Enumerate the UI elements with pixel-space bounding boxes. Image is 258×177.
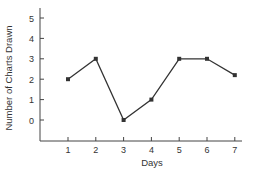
y-tick-label: 0 [29,116,34,126]
y-axis-label: Number of Charts Drawn [3,25,14,130]
data-point [205,57,209,61]
series-line [68,59,235,120]
y-tick-label: 5 [29,14,34,24]
data-series [66,57,237,122]
data-point [149,98,153,102]
x-tick-label: 5 [177,145,182,155]
x-tick-label: 4 [149,145,154,155]
y-tick-label: 4 [29,34,34,44]
data-point [66,77,70,81]
x-tick-label: 1 [65,145,70,155]
x-tick-label: 7 [232,145,237,155]
data-point [177,57,181,61]
x-axis: 1234567 [40,137,242,155]
data-point [233,73,237,77]
y-tick-label: 2 [29,75,34,85]
x-axis-label: Days [141,157,163,168]
x-tick-label: 3 [121,145,126,155]
line-chart: 012345 1234567 Days Number of Charts Dra… [0,0,258,177]
x-tick-label: 2 [93,145,98,155]
y-axis: 012345 [29,8,44,141]
y-tick-label: 1 [29,95,34,105]
data-point [94,57,98,61]
x-tick-label: 6 [204,145,209,155]
data-point [122,118,126,122]
y-tick-label: 3 [29,54,34,64]
